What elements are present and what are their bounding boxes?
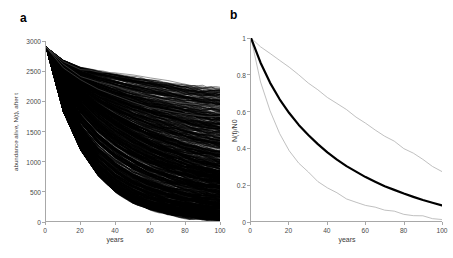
- x-tick-label: 40: [323, 227, 330, 234]
- x-tick-label: 20: [76, 227, 83, 234]
- y-tick-mark: [42, 131, 45, 132]
- panel-b-y-axis-label: N(t)/N0: [231, 119, 238, 142]
- x-tick-label: 0: [43, 227, 47, 234]
- panel-a-plot-area: [45, 41, 220, 222]
- x-tick-mark: [404, 222, 405, 225]
- x-tick-mark: [327, 222, 328, 225]
- y-tick-mark: [42, 101, 45, 102]
- x-tick-label: 80: [400, 227, 407, 234]
- panel-b-plot-area: [250, 38, 442, 222]
- x-tick-mark: [185, 222, 186, 225]
- x-tick-label: 40: [111, 227, 118, 234]
- x-tick-label: 100: [436, 227, 447, 234]
- x-tick-mark: [288, 222, 289, 225]
- panel-b-label: b: [230, 8, 237, 22]
- x-tick-mark: [442, 222, 443, 225]
- y-tick-mark: [247, 148, 250, 149]
- x-tick-label: 60: [362, 227, 369, 234]
- x-tick-label: 20: [285, 227, 292, 234]
- y-tick-label: 0.2: [220, 182, 246, 189]
- x-tick-mark: [80, 222, 81, 225]
- panel-b-curves: [251, 38, 442, 221]
- panel-a-label: a: [20, 11, 27, 25]
- figure-canvas: a abundance alive, N(t), after t years 0…: [0, 0, 453, 258]
- y-tick-mark: [247, 74, 250, 75]
- x-tick-mark: [150, 222, 151, 225]
- y-tick-mark: [42, 41, 45, 42]
- panel-a: a abundance alive, N(t), after t years 0…: [0, 0, 228, 258]
- x-tick-label: 0: [248, 227, 252, 234]
- panel-b-x-axis-label: years: [317, 236, 377, 243]
- panel-b: b N(t)/N0 years 00.20.40.60.810204060801…: [222, 0, 453, 258]
- y-tick-label: 0.6: [220, 108, 246, 115]
- x-tick-mark: [115, 222, 116, 225]
- y-tick-label: 0.8: [220, 71, 246, 78]
- panel-a-x-axis-label: years: [85, 236, 145, 243]
- y-tick-label: 3000: [15, 38, 41, 45]
- panel-a-trajectories: [46, 41, 220, 221]
- y-tick-mark: [247, 111, 250, 112]
- y-tick-label: 0.4: [220, 145, 246, 152]
- y-tick-label: 0: [15, 219, 41, 226]
- y-tick-label: 2500: [15, 68, 41, 75]
- y-tick-label: 1500: [15, 128, 41, 135]
- y-tick-label: 1000: [15, 158, 41, 165]
- x-tick-mark: [45, 222, 46, 225]
- y-tick-mark: [247, 38, 250, 39]
- y-tick-label: 2000: [15, 98, 41, 105]
- y-tick-mark: [42, 161, 45, 162]
- x-tick-label: 80: [181, 227, 188, 234]
- x-tick-mark: [365, 222, 366, 225]
- y-tick-label: 0: [220, 219, 246, 226]
- y-tick-label: 500: [15, 188, 41, 195]
- x-tick-mark: [250, 222, 251, 225]
- y-tick-label: 1: [220, 35, 246, 42]
- y-tick-mark: [42, 191, 45, 192]
- x-tick-label: 60: [146, 227, 153, 234]
- y-tick-mark: [42, 71, 45, 72]
- y-tick-mark: [247, 185, 250, 186]
